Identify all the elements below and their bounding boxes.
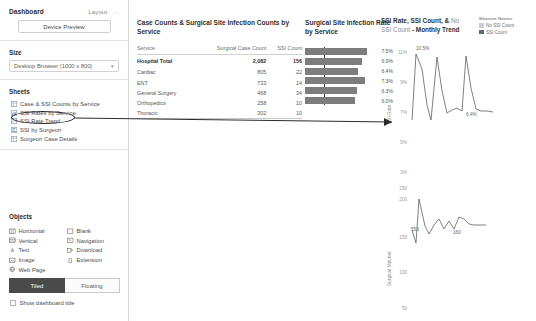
- dashboard-header-row: Dashboard Layout ···: [9, 5, 119, 20]
- objects-section-header: Objects: [9, 213, 120, 220]
- title-part-1: SSI Rate, SSI Count, &: [381, 17, 451, 24]
- sheet-label: Surgeon Case Details: [20, 136, 77, 142]
- surgical-volume-trend-chart[interactable]: 250 200 150 100 50 Surgical Volume 553 1…: [381, 186, 531, 321]
- legend-item-no-ssi-count[interactable]: No SSI Count: [479, 23, 531, 28]
- cell-service: Thoracic: [137, 108, 194, 119]
- dashboard-canvas: Case Counts & Surgical Site Infection Co…: [129, 0, 536, 321]
- sheets-section: Sheets Case & SSI Counts by Service SSI …: [0, 80, 128, 150]
- object-label: Blank: [77, 228, 92, 234]
- table-row[interactable]: Hospital Total 2,082 156: [137, 54, 302, 67]
- navigation-icon: [67, 237, 74, 244]
- bar-fill: [305, 48, 367, 55]
- col-ssi-count: SSI Count: [266, 45, 302, 54]
- tiled-button[interactable]: Tiled: [9, 278, 65, 292]
- bar-row[interactable]: 7.5%: [305, 47, 393, 56]
- table-row[interactable]: General Surgery 468 34: [137, 88, 302, 98]
- cell-ssi: 34: [266, 88, 302, 98]
- bar-track: [305, 68, 379, 75]
- monthly-trend-panel: SSI Rate, SSI Count, & No SSI Count - Mo…: [381, 16, 531, 316]
- col-service: Service: [137, 45, 194, 54]
- size-section-header: Size: [9, 49, 119, 56]
- tiled-floating-toggle: Tiled Floating: [9, 274, 120, 296]
- chevron-down-icon: ▾: [111, 63, 114, 69]
- cell-service: ENT: [137, 77, 194, 87]
- legend-item-ssi-count[interactable]: SSI Count: [479, 30, 531, 35]
- sidebar-item-case-ssi-counts-by-service[interactable]: Case & SSI Counts by Service: [9, 100, 119, 109]
- svg-text:A: A: [10, 247, 14, 253]
- sidebar-item-surgeon-case-details[interactable]: Surgeon Case Details: [9, 134, 119, 143]
- cell-cases: 468: [194, 88, 266, 98]
- table-row[interactable]: Thoracic 302 10: [137, 108, 302, 119]
- monthly-trend-header: SSI Rate, SSI Count, & No SSI Count - Mo…: [381, 16, 531, 36]
- bar-chart-icon: [11, 110, 17, 116]
- object-label: Web Page: [19, 267, 46, 273]
- text-object-icon: A: [9, 247, 16, 254]
- bar-fill: [305, 77, 365, 84]
- sheets-list: Case & SSI Counts by Service SSI Rates b…: [9, 99, 119, 145]
- cell-cases: 2,082: [194, 54, 266, 67]
- overflow-menu-icon[interactable]: ···: [113, 9, 119, 15]
- show-dashboard-title-checkbox[interactable]: [10, 300, 16, 306]
- object-navigation[interactable]: Navigation: [67, 236, 120, 246]
- sidebar-item-ssi-rate-trend[interactable]: SSI Rate Trend: [9, 117, 119, 126]
- bar-row[interactable]: 6.4%: [305, 67, 393, 76]
- object-web-page[interactable]: Web Page: [9, 265, 62, 275]
- cell-service: Hospital Total: [137, 54, 194, 67]
- table-row[interactable]: Cardiac 805 22: [137, 67, 302, 77]
- object-download[interactable]: Download: [67, 245, 120, 255]
- legend-swatch-icon: [479, 23, 484, 28]
- dashboard-sidebar: Dashboard Layout ··· Device Preview Size…: [0, 0, 129, 321]
- size-section: Size Desktop Browser (1000 x 800) ▾: [0, 41, 128, 80]
- legend-swatch-icon: [479, 30, 484, 35]
- object-label: Vertical: [19, 238, 38, 244]
- object-image[interactable]: Image: [9, 255, 62, 265]
- cell-cases: 805: [194, 67, 266, 77]
- size-select[interactable]: Desktop Browser (1000 x 800) ▾: [9, 60, 119, 72]
- sheet-label: SSI Rate Trend: [20, 118, 60, 124]
- horizontal-container-icon: [9, 228, 16, 235]
- blank-object-icon: [67, 228, 74, 235]
- object-extension[interactable]: Extension: [67, 255, 120, 265]
- cell-ssi: 22: [266, 67, 302, 77]
- object-vertical[interactable]: Vertical: [9, 236, 62, 246]
- object-label: Download: [77, 247, 103, 253]
- title-part-3: SSI Count: [381, 26, 410, 33]
- object-text[interactable]: A Text: [9, 245, 62, 255]
- cell-ssi: 10: [266, 108, 302, 119]
- object-label: Extension: [77, 257, 102, 263]
- table-row[interactable]: Orthopedics 258 10: [137, 98, 302, 108]
- cell-service: Cardiac: [137, 67, 194, 77]
- tableau-dashboard-screen: Dashboard Layout ··· Device Preview Size…: [0, 0, 536, 321]
- ssi-rate-bar-panel: Surgical Site Infection Rate by Service …: [305, 18, 393, 106]
- object-horizontal[interactable]: Horizontal: [9, 226, 62, 236]
- bar-row[interactable]: 6.3%: [305, 87, 393, 96]
- bar-row[interactable]: 6.9%: [305, 57, 393, 66]
- bar-row[interactable]: 7.3%: [305, 77, 393, 86]
- bar-fill: [305, 87, 357, 94]
- bar-fill: [305, 58, 362, 65]
- floating-button[interactable]: Floating: [65, 278, 120, 292]
- device-preview-button[interactable]: Device Preview: [18, 20, 111, 33]
- case-counts-table: Service Surgical Case Count SSI Count Ho…: [137, 45, 302, 119]
- ssi-rate-trend-chart[interactable]: 11% 9% 7% 5% 3% SSI Rate 10.5% 6.4%: [381, 46, 531, 186]
- table-row[interactable]: ENT 733 14: [137, 77, 302, 87]
- sidebar-item-ssi-by-surgeon[interactable]: SSI by Surgeon: [9, 126, 119, 135]
- show-dashboard-title-row[interactable]: Show dashboard title: [9, 297, 120, 308]
- web-page-icon: [9, 266, 16, 273]
- cell-ssi: 14: [266, 77, 302, 87]
- bar-chart-icon: [11, 127, 17, 133]
- size-select-value: Desktop Browser (1000 x 800): [14, 63, 92, 69]
- text-table-icon: [11, 136, 17, 142]
- vertical-container-icon: [9, 237, 16, 244]
- object-blank[interactable]: Blank: [67, 226, 120, 236]
- col-surgical-case-count: Surgical Case Count: [194, 45, 266, 54]
- sheets-section-header: Sheets: [9, 88, 119, 95]
- objects-section: Objects Horizontal Blank: [0, 205, 129, 312]
- bar-row[interactable]: 6.0%: [305, 96, 393, 105]
- object-label: Navigation: [77, 238, 104, 244]
- sidebar-item-ssi-rates-by-service[interactable]: SSI Rates by Service: [9, 109, 119, 118]
- monthly-trend-title: SSI Rate, SSI Count, & No SSI Count - Mo…: [381, 16, 467, 34]
- layout-tab[interactable]: Layout: [88, 8, 107, 15]
- cell-cases: 302: [194, 108, 266, 119]
- object-label: Image: [19, 257, 35, 263]
